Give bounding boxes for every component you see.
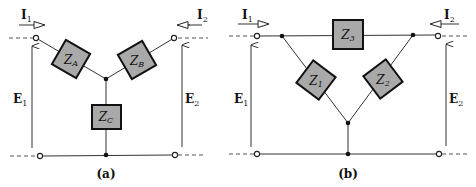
label-i2-a: I2	[197, 8, 208, 24]
junction-center-a	[104, 77, 109, 82]
label-e2-b: E2	[449, 92, 463, 108]
circuit-figure: ZA ZB ZC E1 E2 I1 I2	[0, 0, 476, 187]
label-e1-b: E1	[234, 92, 248, 108]
terminal-top-left-a	[33, 35, 38, 40]
label-i1-b: I1	[242, 8, 253, 24]
terminal-bottom-left-a	[37, 153, 42, 158]
current-arrow-i1-a	[19, 22, 45, 29]
terminal-top-left-b	[254, 33, 259, 38]
label-i1-a: I1	[21, 8, 32, 24]
current-arrow-i2-a	[177, 22, 202, 29]
terminal-bottom-right-a	[172, 152, 177, 157]
label-e1-a: E1	[13, 92, 27, 108]
terminal-bottom-left-b	[254, 151, 259, 156]
junction-top-left-b	[280, 34, 285, 39]
caption-a: (a)	[96, 167, 115, 181]
terminal-bottom-right-b	[436, 151, 441, 156]
label-e2-a: E2	[185, 92, 199, 108]
junction-bottom-b	[346, 152, 351, 157]
caption-b: (b)	[338, 167, 358, 181]
panel-a: ZA ZB ZC E1 E2 I1 I2	[9, 8, 208, 181]
label-i2-b: I2	[444, 8, 455, 24]
junction-top-right-b	[411, 33, 416, 38]
junction-bottom-a	[104, 153, 109, 158]
terminal-top-right-b	[435, 33, 440, 38]
terminal-top-right-a	[171, 35, 176, 40]
panel-b: Z3 Z1 Z2 E1 E2 I1	[229, 8, 468, 181]
junction-center-b	[346, 121, 351, 126]
